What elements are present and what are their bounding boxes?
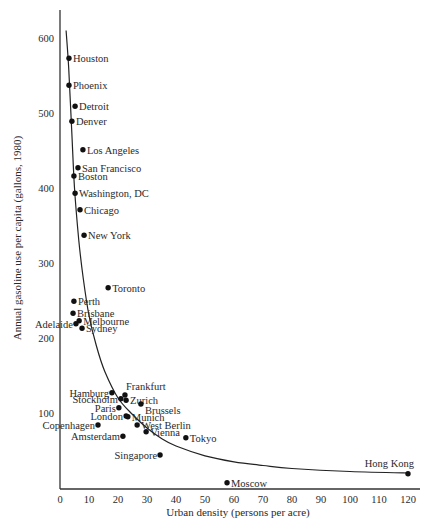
city-point-new-york: New York bbox=[81, 230, 131, 241]
x-tick-label: 100 bbox=[342, 494, 358, 505]
data-label: Chicago bbox=[84, 205, 119, 216]
data-marker bbox=[69, 119, 74, 124]
y-tick-label: 200 bbox=[38, 333, 54, 344]
data-marker bbox=[134, 422, 139, 427]
data-label: Denver bbox=[76, 116, 107, 127]
data-marker bbox=[76, 318, 81, 323]
data-marker bbox=[72, 191, 77, 196]
data-label: Toronto bbox=[112, 283, 145, 294]
data-marker bbox=[143, 429, 148, 434]
city-point-london: London bbox=[90, 411, 128, 422]
x-tick-label: 120 bbox=[400, 494, 416, 505]
x-tick-label: 30 bbox=[142, 494, 153, 505]
data-label: Sydney bbox=[86, 323, 118, 334]
city-point-phoenix: Phoenix bbox=[66, 80, 108, 91]
y-tick-label: 400 bbox=[38, 183, 54, 194]
city-point-toronto: Toronto bbox=[105, 283, 145, 294]
x-tick-label: 70 bbox=[258, 494, 269, 505]
data-label: Moscow bbox=[231, 478, 268, 489]
data-label: Boston bbox=[78, 171, 109, 182]
x-axis-label: Urban density (persons per acre) bbox=[166, 506, 310, 519]
city-point-denver: Denver bbox=[69, 116, 107, 127]
y-tick-label: 600 bbox=[38, 33, 54, 44]
data-marker bbox=[125, 414, 130, 419]
data-marker bbox=[224, 480, 229, 485]
data-marker bbox=[72, 104, 77, 109]
city-point-tokyo: Tokyo bbox=[183, 433, 216, 444]
city-point-detroit: Detroit bbox=[72, 101, 109, 112]
data-marker bbox=[118, 396, 123, 401]
data-label: Houston bbox=[73, 53, 109, 64]
y-tick-labels: 100200300400500600 bbox=[38, 33, 54, 419]
x-tick-labels: 0102030405060708090100110120 bbox=[57, 494, 416, 505]
data-label: Frankfurt bbox=[126, 381, 166, 392]
data-marker bbox=[81, 233, 86, 238]
data-label: Los Angeles bbox=[87, 145, 139, 156]
city-point-perth: Perth bbox=[71, 296, 101, 307]
city-point-adelaide: Adelaide bbox=[35, 319, 79, 330]
data-label: Vienna bbox=[150, 427, 180, 438]
data-label: Adelaide bbox=[35, 319, 73, 330]
data-marker bbox=[105, 285, 110, 290]
y-axis-label: Annual gasoline use per capita (gallons,… bbox=[11, 135, 24, 340]
x-tick-label: 50 bbox=[200, 494, 211, 505]
x-tick-label: 110 bbox=[371, 494, 386, 505]
data-marker bbox=[66, 56, 71, 61]
data-label: Perth bbox=[78, 296, 101, 307]
data-marker bbox=[157, 452, 162, 457]
x-tick-label: 20 bbox=[113, 494, 124, 505]
data-marker bbox=[405, 471, 410, 476]
city-point-washington-dc: Washington, DC bbox=[72, 188, 148, 199]
city-point-houston: Houston bbox=[66, 53, 109, 64]
x-tick-label: 0 bbox=[57, 494, 62, 505]
y-tick-label: 100 bbox=[38, 408, 54, 419]
city-point-sydney: Sydney bbox=[79, 323, 118, 334]
data-marker bbox=[79, 326, 84, 331]
data-marker bbox=[120, 434, 125, 439]
data-marker bbox=[116, 405, 121, 410]
x-tick-label: 40 bbox=[171, 494, 182, 505]
data-marker bbox=[75, 165, 80, 170]
data-marker bbox=[95, 422, 100, 427]
data-marker bbox=[183, 435, 188, 440]
data-marker bbox=[71, 173, 76, 178]
y-tick-label: 500 bbox=[38, 108, 54, 119]
data-marker bbox=[77, 207, 82, 212]
city-point-amsterdam: Amsterdam bbox=[71, 431, 126, 442]
x-tick-label: 60 bbox=[229, 494, 240, 505]
city-point-copenhagen: Copenhagen bbox=[42, 420, 100, 431]
city-point-chicago: Chicago bbox=[77, 205, 119, 216]
data-points: HoustonPhoenixDetroitDenverLos AngelesSa… bbox=[35, 53, 415, 489]
data-label: Hong Kong bbox=[365, 458, 415, 469]
city-point-moscow: Moscow bbox=[224, 478, 267, 489]
data-label: Copenhagen bbox=[42, 420, 95, 431]
data-label: Singapore bbox=[114, 450, 157, 461]
scatter-chart: 0102030405060708090100110120 10020030040… bbox=[0, 0, 441, 530]
data-marker bbox=[122, 392, 127, 397]
data-marker bbox=[70, 311, 75, 316]
data-label: Detroit bbox=[79, 101, 109, 112]
data-marker bbox=[80, 147, 85, 152]
data-label: Amsterdam bbox=[71, 431, 120, 442]
data-label: Washington, DC bbox=[79, 188, 149, 199]
data-label: London bbox=[90, 411, 123, 422]
data-label: Tokyo bbox=[190, 433, 217, 444]
data-marker bbox=[138, 401, 143, 406]
data-marker bbox=[71, 299, 76, 304]
city-point-los-angeles: Los Angeles bbox=[80, 145, 139, 156]
x-tick-label: 90 bbox=[316, 494, 327, 505]
y-tick-label: 300 bbox=[38, 258, 54, 269]
city-point-hong-kong: Hong Kong bbox=[365, 458, 415, 477]
data-marker bbox=[123, 398, 128, 403]
x-tick-label: 10 bbox=[84, 494, 95, 505]
data-label: New York bbox=[88, 230, 131, 241]
data-label: Phoenix bbox=[73, 80, 108, 91]
x-tick-label: 80 bbox=[287, 494, 298, 505]
city-point-singapore: Singapore bbox=[114, 450, 162, 461]
city-point-boston: Boston bbox=[71, 171, 108, 182]
data-marker bbox=[66, 83, 71, 88]
